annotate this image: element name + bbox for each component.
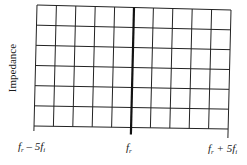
center-frequency-line	[131, 8, 134, 135]
x-tick-label-left: fr – 5fi	[18, 140, 45, 154]
y-axis-label: Impedance	[6, 44, 18, 92]
x-tick-label-center: fr	[126, 141, 132, 155]
x-tick-label-right: fr + 5fi	[208, 142, 237, 156]
grid-column-line	[34, 5, 37, 131]
impedance-grid-diagram: Impedance fr – 5fi fr fr + 5fi	[0, 0, 247, 165]
grid-column-line	[228, 10, 231, 138]
